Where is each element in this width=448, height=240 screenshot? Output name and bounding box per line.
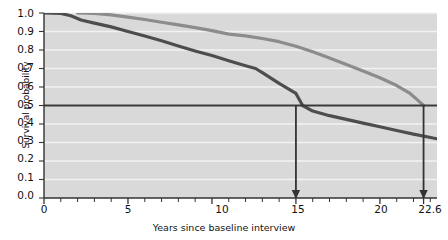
- survival-probability-chart: Survival probability 1.0 0.9 0.8 0.7 0.6…: [0, 0, 448, 240]
- plot-area: [0, 0, 448, 240]
